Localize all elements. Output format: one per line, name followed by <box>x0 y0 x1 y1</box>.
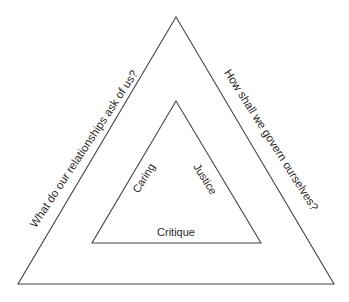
critique-label: Critique <box>157 226 195 238</box>
outer-triangle <box>18 17 334 284</box>
inner-triangle <box>92 101 261 243</box>
ethics-triangle-diagram: What do our relationships ask of us? How… <box>0 0 349 302</box>
outer-left-label: What do our relationships ask of us? <box>27 68 140 230</box>
outer-right-label: How shall we govern ourselves? <box>222 67 321 213</box>
diagram-svg: What do our relationships ask of us? How… <box>0 0 349 302</box>
caring-label: Caring <box>130 161 157 195</box>
